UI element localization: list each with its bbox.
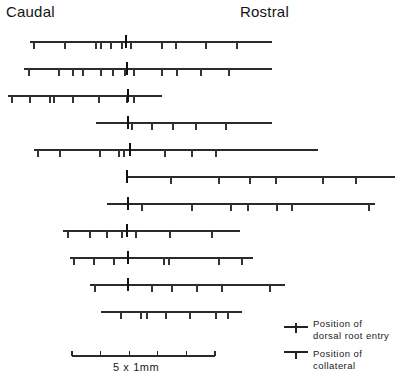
axon-row [107,197,375,211]
axon-row [34,143,318,157]
scale-bar-label: 5 x 1mm [113,361,159,373]
legend-dre-line2: dorsal root entry [313,330,389,342]
rostral-orientation-label: Rostral [240,3,289,20]
scale-bar [72,351,215,356]
axon-row [24,62,272,76]
legend-glyphs [284,323,308,359]
axon-row [101,312,242,319]
axon-row [30,35,272,49]
legend-collateral-text: Position of collateral [313,348,362,371]
axon-row [63,224,240,238]
axon-row [90,278,285,292]
axon-row [70,251,253,265]
axon-row [8,89,162,103]
legend-coll-line1: Position of [313,348,362,360]
axon-row [96,116,272,130]
axon-row [126,170,395,184]
legend-dorsal-root-entry-text: Position of dorsal root entry [313,318,389,341]
legend-dre-line1: Position of [313,318,389,330]
legend-coll-line2: collateral [313,360,362,372]
axon-collateral-figure: Caudal Rostral 5 x 1mm Position of dorsa… [0,0,409,379]
caudal-orientation-label: Caudal [6,3,55,20]
